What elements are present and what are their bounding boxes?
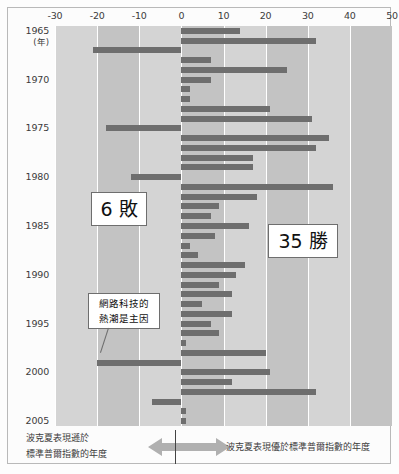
- bar-1970: [181, 77, 210, 83]
- plot-band: [55, 26, 97, 426]
- x-tick-50: 50: [386, 10, 398, 21]
- year-label-1980: 1980: [26, 171, 49, 182]
- plot-band: [97, 26, 139, 426]
- year-label-1995: 1995: [26, 318, 49, 329]
- bar-2005: [181, 418, 185, 424]
- annotation-note-line1: 網路科技的: [91, 296, 157, 311]
- annotation-note-box: 網路科技的 熱潮是主因: [88, 293, 160, 329]
- bar-1967: [93, 47, 181, 53]
- year-axis-unit-label: (年): [33, 35, 49, 47]
- bar-1976: [181, 135, 328, 141]
- bar-1971: [181, 86, 189, 92]
- legend-underperform-line1: 波克夏表現遜於: [26, 430, 146, 446]
- bar-1998: [181, 350, 265, 356]
- bar-1989: [181, 262, 244, 268]
- bar-1997: [181, 340, 185, 346]
- gridline: [55, 26, 56, 426]
- bar-1984: [181, 213, 210, 219]
- x-tick-30: 30: [302, 10, 314, 21]
- bar-1981: [181, 184, 333, 190]
- x-axis-tick-labels: -30-20-1001020304050(%): [0, 10, 399, 24]
- bar-1991: [181, 282, 219, 288]
- legend-underperform-text: 波克夏表現遜於 標準普爾指數的年度: [26, 430, 146, 462]
- bar-1978: [181, 155, 253, 161]
- legend: 波克夏表現遜於 標準普爾指數的年度 波克夏表現優於標準普爾指數的年度: [8, 428, 390, 466]
- bar-1988: [181, 252, 198, 258]
- year-label-1970: 1970: [26, 74, 49, 85]
- right-arrow-icon: [186, 436, 230, 458]
- bar-1999: [97, 360, 181, 366]
- year-label-1975: 1975: [26, 122, 49, 133]
- losses-badge: 6 敗: [91, 192, 147, 226]
- wins-badge: 35 勝: [268, 224, 338, 258]
- bar-2000: [181, 369, 269, 375]
- gridline: [139, 26, 140, 426]
- bar-1977: [181, 145, 316, 151]
- bar-1982: [181, 194, 257, 200]
- gridline: [266, 26, 267, 426]
- gridline: [97, 26, 98, 426]
- x-tick-neg20: -20: [90, 10, 105, 21]
- bar-1986: [181, 233, 215, 239]
- legend-divider: [175, 430, 176, 464]
- plot-band: [139, 26, 181, 426]
- plot-area: [55, 26, 392, 426]
- bar-1965: [181, 28, 240, 34]
- x-tick-10: 10: [218, 10, 230, 21]
- bar-1969: [181, 67, 286, 73]
- bar-1966: [181, 38, 316, 44]
- year-label-1990: 1990: [26, 269, 49, 280]
- bar-1974: [181, 116, 312, 122]
- bar-2003: [152, 399, 181, 405]
- bar-1993: [181, 301, 202, 307]
- bar-1980: [131, 174, 182, 180]
- bar-1990: [181, 272, 236, 278]
- chart-page: -30-20-1001020304050(%) 1965197019751980…: [0, 0, 399, 474]
- bar-1968: [181, 57, 210, 63]
- bar-2002: [181, 389, 316, 395]
- year-label-2005: 2005: [26, 415, 49, 426]
- bar-1994: [181, 311, 232, 317]
- year-label-2000: 2000: [26, 366, 49, 377]
- x-tick-neg30: -30: [48, 10, 63, 21]
- legend-outperform-text: 波克夏表現優於標準普爾指數的年度: [226, 440, 391, 454]
- annotation-note-line2: 熱潮是主因: [91, 311, 157, 326]
- x-tick-40: 40: [344, 10, 356, 21]
- bar-1972: [181, 96, 189, 102]
- gridline: [350, 26, 351, 426]
- x-tick-0: 0: [178, 10, 184, 21]
- bar-1973: [181, 106, 269, 112]
- bar-1975: [106, 125, 182, 131]
- y-axis-year-labels: 196519701975198019851990199520002005(年): [0, 26, 55, 426]
- bar-1979: [181, 164, 253, 170]
- x-tick-neg10: -10: [132, 10, 147, 21]
- bar-1996: [181, 330, 219, 336]
- bar-1995: [181, 321, 210, 327]
- legend-underperform-line2: 標準普爾指數的年度: [26, 446, 146, 462]
- bar-1992: [181, 291, 232, 297]
- bar-1987: [181, 243, 189, 249]
- bar-1983: [181, 203, 219, 209]
- bar-2004: [181, 408, 185, 414]
- year-label-1985: 1985: [26, 220, 49, 231]
- bar-1985: [181, 223, 248, 229]
- plot-band: [350, 26, 392, 426]
- x-tick-20: 20: [260, 10, 272, 21]
- bar-2001: [181, 379, 232, 385]
